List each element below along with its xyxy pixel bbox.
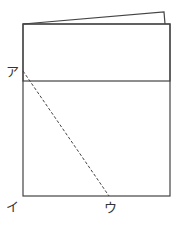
back-flap xyxy=(23,12,165,24)
label-i: イ xyxy=(6,200,19,213)
folded-paper-diagram xyxy=(0,0,181,230)
paper-rectangle-body xyxy=(23,24,170,196)
label-u: ウ xyxy=(104,201,117,214)
paper-rectangle xyxy=(23,24,170,81)
label-a: ア xyxy=(6,65,19,78)
fold-line-dashed xyxy=(23,71,109,196)
